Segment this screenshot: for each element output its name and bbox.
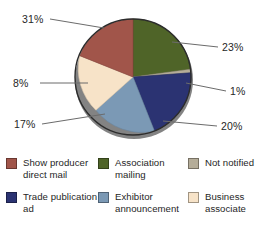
legend-swatch-association-mailing	[98, 158, 109, 169]
pie-label-1: 1%	[230, 86, 246, 97]
pie-label-23: 23%	[222, 42, 244, 53]
legend-item-exhibitor-announcement[interactable]: Exhibitor announcement	[98, 191, 188, 222]
pie-plot-area: 31% 8% 17% 23% 1% 20%	[0, 0, 274, 152]
legend-item-business-associate[interactable]: Business associate	[188, 191, 270, 222]
legend-swatch-show-producer-direct-mail	[6, 158, 17, 169]
legend-label-association-mailing: Association mailing	[115, 157, 188, 180]
legend-swatch-business-associate	[188, 192, 199, 203]
legend-item-association-mailing[interactable]: Association mailing	[98, 157, 188, 188]
legend-label-show-producer-direct-mail: Show producer direct mail	[23, 157, 98, 180]
pie-label-8: 8%	[13, 78, 29, 89]
pie-label-20: 20%	[221, 121, 243, 132]
leader-line-31	[50, 19, 104, 28]
legend-swatch-trade-publication-ad	[6, 192, 17, 203]
legend-swatch-exhibitor-announcement	[98, 192, 109, 203]
legend-item-show-producer-direct-mail[interactable]: Show producer direct mail	[6, 157, 98, 188]
legend-label-business-associate: Business associate	[205, 191, 270, 214]
legend-swatch-not-notified	[188, 158, 199, 169]
pie-label-31: 31%	[22, 14, 44, 25]
pie-chart-figure: 31% 8% 17% 23% 1% 20% Show producer dire…	[0, 0, 274, 227]
legend-label-exhibitor-announcement: Exhibitor announcement	[115, 191, 188, 214]
chart-legend: Show producer direct mail Association ma…	[6, 157, 270, 223]
legend-item-trade-publication-ad[interactable]: Trade publication ad	[6, 191, 98, 222]
pie-label-17: 17%	[14, 119, 36, 130]
legend-label-not-notified: Not notified	[205, 157, 254, 169]
legend-item-not-notified[interactable]: Not notified	[188, 157, 270, 188]
pie-slice-association-mailing[interactable]	[133, 19, 191, 77]
legend-label-trade-publication-ad: Trade publication ad	[23, 191, 98, 214]
